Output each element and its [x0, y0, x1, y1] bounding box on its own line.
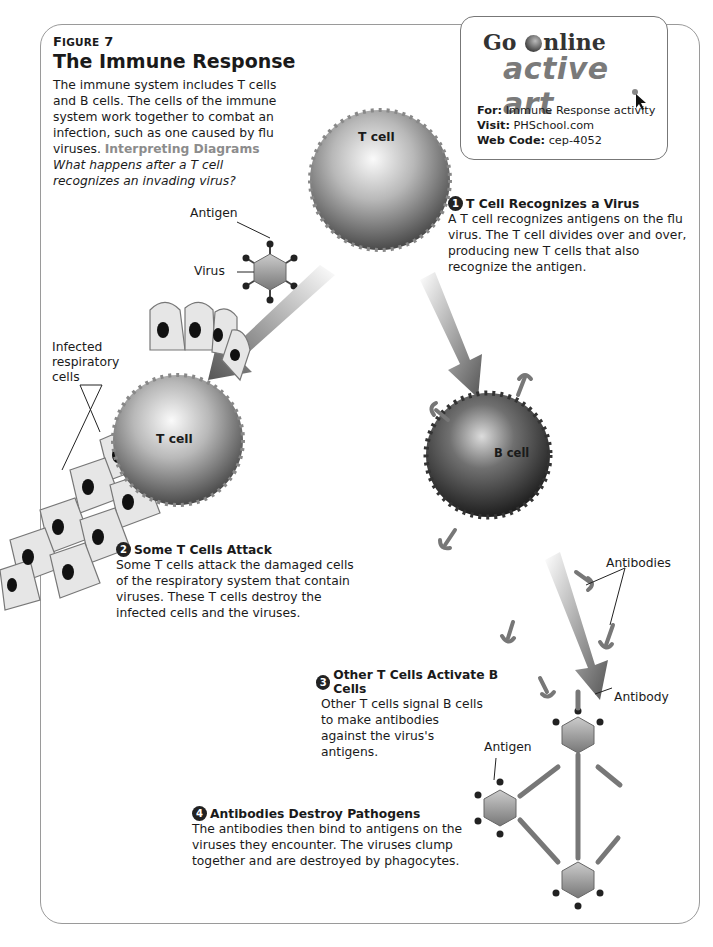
b-cell — [426, 393, 550, 517]
virus-label: Virus — [194, 264, 225, 279]
step-3-title: Other T Cells Activate B Cells — [333, 668, 526, 696]
step-1-body: A T cell recognizes antigens on the flu … — [448, 211, 693, 275]
step-4: 4Antibodies Destroy Pathogens The antibo… — [192, 806, 472, 869]
step-2: 2Some T Cells Attack Some T cells attack… — [116, 542, 366, 621]
step-4-badge: 4 — [192, 806, 207, 821]
t-cell-top-label: T cell — [358, 130, 395, 144]
infected-cells-label: Infected respiratory cells — [52, 340, 132, 385]
b-cell-label: B cell — [494, 446, 529, 460]
antibodies-label: Antibodies — [606, 556, 671, 571]
step-3-body: Other T cells signal B cells to make ant… — [316, 696, 486, 760]
step-3: 3Other T Cells Activate B Cells Other T … — [316, 668, 526, 760]
step-2-badge: 2 — [116, 542, 131, 557]
step-4-title: Antibodies Destroy Pathogens — [210, 807, 420, 821]
step-4-body: The antibodies then bind to antigens on … — [192, 821, 472, 869]
step-1: 1T Cell Recognizes a Virus A T cell reco… — [448, 196, 693, 275]
step-3-badge: 3 — [316, 675, 330, 690]
antigen-label-top: Antigen — [190, 206, 238, 221]
step-1-title: T Cell Recognizes a Virus — [466, 197, 639, 211]
antibody-label: Antibody — [614, 690, 669, 705]
immune-diagram — [0, 0, 713, 947]
step-1-badge: 1 — [448, 196, 463, 211]
arrow-to-b-cell — [420, 272, 482, 398]
step-2-title: Some T Cells Attack — [134, 543, 272, 557]
t-cell-attack-label: T cell — [156, 432, 193, 446]
step-2-body: Some T cells attack the damaged cells of… — [116, 557, 366, 621]
